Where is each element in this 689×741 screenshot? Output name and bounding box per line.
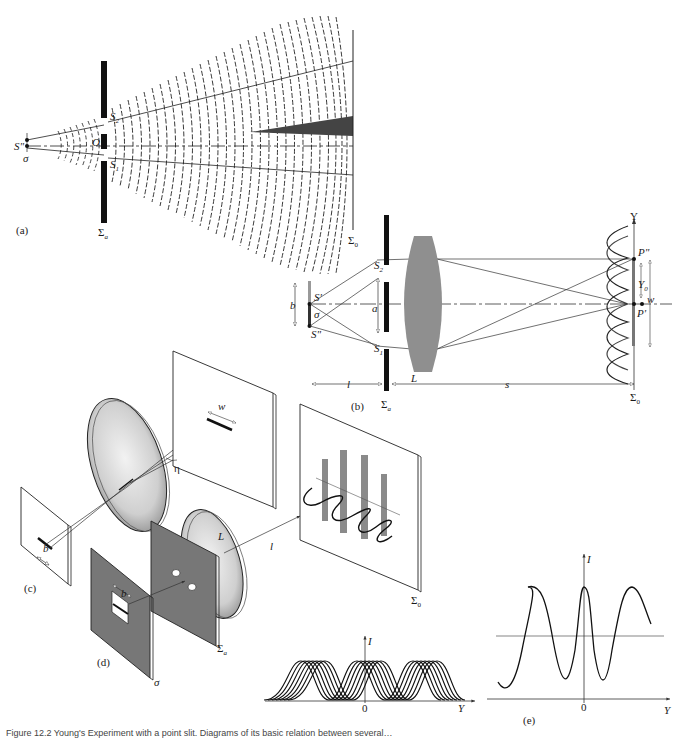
panel-d-observation-screen [300, 404, 421, 592]
panel-e-tag: (e) [523, 714, 536, 727]
label-d-sigma-a: Σa [217, 642, 227, 657]
label-b-p-dprime: P" [637, 246, 650, 258]
label-b-s-prime: S' [314, 291, 323, 303]
label-a-o: O [92, 136, 100, 148]
panel-a-tag: (a) [16, 224, 29, 237]
label-b-a: a [372, 302, 378, 314]
label-b-sigma-a: Σa [381, 398, 391, 413]
chart-e1-zero-tick: 0 [362, 702, 368, 714]
figure-canvas: S" σ S2 O S1 Σa Σ0 (a) [0, 0, 689, 741]
label-b-s-dprime: S" [311, 328, 322, 340]
label-c-eta: η [174, 462, 180, 474]
fringe-3 [361, 455, 368, 539]
pinhole-2 [188, 584, 196, 591]
panel-a-aperture-screen [101, 61, 107, 223]
label-a-sigma-a: Σa [98, 226, 108, 241]
label-c-b: b [43, 542, 49, 554]
source-upper-half [308, 281, 311, 304]
label-b-s: s [505, 378, 509, 390]
panel-a-rays [27, 61, 353, 175]
label-d-l: l [270, 540, 273, 552]
label-b-y-axis: Y [630, 210, 638, 222]
source-lower-half [308, 304, 311, 327]
label-d-b: b [121, 587, 127, 599]
label-b-y0: Y0 [638, 278, 648, 293]
label-b-s2: S2 [374, 259, 384, 274]
label-b-l: l [347, 378, 350, 390]
label-b-lens: L [410, 372, 417, 384]
panel-b-aperture-screen [384, 215, 389, 391]
panel-c [21, 351, 276, 586]
label-a-s2: S2 [110, 110, 120, 125]
panel-c-tag: (c) [24, 582, 37, 595]
chart-e2-zero-tick: 0 [581, 701, 587, 713]
chart-e2-curve [498, 586, 651, 688]
label-d-sigma-0: Σ0 [411, 594, 421, 609]
label-b-sigma-0: Σ0 [630, 391, 640, 406]
lens-L [404, 236, 442, 372]
label-b-w: w [647, 293, 655, 305]
label-b-p-prime: P' [636, 307, 647, 319]
chart-e2-ylabel: I [586, 553, 592, 565]
label-c-w: w [218, 400, 226, 412]
pinhole-1 [172, 570, 180, 577]
label-a-sigma-0: Σ0 [348, 234, 358, 249]
source-point-bottom [25, 144, 29, 148]
label-a-source: S" [14, 140, 25, 152]
lens-c [72, 389, 181, 542]
chart-e1-ylabel: I [367, 635, 373, 647]
panel-b-tag: (b) [351, 400, 364, 413]
bright-fringe-wedge [250, 116, 353, 136]
figure-caption: Figure 12.2 Young's Experiment with a po… [6, 728, 392, 738]
source-point-top [25, 138, 29, 142]
label-b-sigma: σ [314, 308, 320, 320]
fringe-spread-bar [632, 258, 635, 346]
label-d-sigma: σ [154, 676, 160, 688]
label-a-sigma: σ [23, 152, 29, 164]
chart-e-resultant [487, 554, 670, 703]
chart-e2-xlabel: Y [664, 704, 672, 716]
fringe-4 [381, 474, 387, 536]
label-b-s1: S1 [374, 342, 383, 357]
fringe-1 [322, 459, 328, 521]
chart-e1-xlabel: Y [458, 702, 466, 714]
label-d-lens: L [217, 530, 224, 542]
label-b-b: b [290, 299, 296, 311]
panel-d-tag: (d) [97, 656, 110, 669]
